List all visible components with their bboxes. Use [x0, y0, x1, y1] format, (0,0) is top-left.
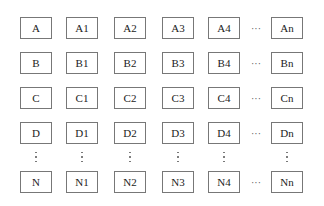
dot	[177, 152, 179, 154]
matrix-cell: B3	[162, 52, 194, 74]
matrix-cell: Nn	[271, 171, 303, 193]
matrix-cell: C	[20, 87, 52, 109]
matrix-cell: A3	[162, 17, 194, 39]
dot	[81, 161, 83, 163]
matrix-cell: D4	[208, 122, 240, 144]
vertical-ellipsis-icon	[162, 149, 194, 165]
matrix-cell: N4	[208, 171, 240, 193]
matrix-cell: C3	[162, 87, 194, 109]
dot	[286, 161, 288, 163]
matrix-cell: C2	[114, 87, 146, 109]
matrix-cell: Bn	[271, 52, 303, 74]
dot	[223, 152, 225, 154]
dot	[129, 161, 131, 163]
matrix-cell: A2	[114, 17, 146, 39]
dot	[129, 156, 131, 158]
horizontal-ellipsis: ···	[241, 52, 271, 74]
dot	[286, 152, 288, 154]
vertical-ellipsis-icon	[20, 149, 52, 165]
matrix-cell: N2	[114, 171, 146, 193]
matrix-cell: N3	[162, 171, 194, 193]
matrix-cell: B4	[208, 52, 240, 74]
dot	[129, 152, 131, 154]
matrix-cell: N1	[66, 171, 98, 193]
dot	[223, 156, 225, 158]
horizontal-ellipsis: ···	[241, 171, 271, 193]
vertical-ellipsis-icon	[66, 149, 98, 165]
matrix-cell: N	[20, 171, 52, 193]
matrix-cell: Cn	[271, 87, 303, 109]
dot	[177, 156, 179, 158]
matrix-cell: An	[271, 17, 303, 39]
matrix-cell: D3	[162, 122, 194, 144]
matrix-cell: A1	[66, 17, 98, 39]
dot	[81, 152, 83, 154]
dot	[223, 161, 225, 163]
matrix-cell: D2	[114, 122, 146, 144]
dot	[177, 161, 179, 163]
matrix-cell: B1	[66, 52, 98, 74]
matrix-cell: B2	[114, 52, 146, 74]
horizontal-ellipsis: ···	[241, 17, 271, 39]
dot	[81, 156, 83, 158]
matrix-cell: D	[20, 122, 52, 144]
vertical-ellipsis-icon	[208, 149, 240, 165]
dot	[35, 161, 37, 163]
dot	[35, 156, 37, 158]
matrix-cell: Dn	[271, 122, 303, 144]
matrix-cell: B	[20, 52, 52, 74]
matrix-cell: A4	[208, 17, 240, 39]
vertical-ellipsis-icon	[271, 149, 303, 165]
matrix-cell: D1	[66, 122, 98, 144]
dot	[286, 156, 288, 158]
matrix-cell: C1	[66, 87, 98, 109]
matrix-cell: A	[20, 17, 52, 39]
matrix-cell: C4	[208, 87, 240, 109]
horizontal-ellipsis: ···	[241, 122, 271, 144]
horizontal-ellipsis: ···	[241, 87, 271, 109]
vertical-ellipsis-icon	[114, 149, 146, 165]
dot	[35, 152, 37, 154]
